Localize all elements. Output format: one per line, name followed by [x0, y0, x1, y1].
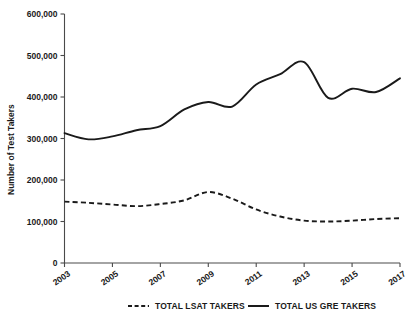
y-axis-title-text: Number of Test Takers: [6, 104, 16, 195]
y-tick-label: 200,000: [27, 175, 58, 185]
x-tick-label: 2015: [338, 268, 359, 287]
series-lines: [65, 61, 401, 221]
x-tick-label: 2003: [51, 268, 72, 287]
y-tick-label: 400,000: [27, 92, 58, 102]
chart-legend: TOTAL LSAT TAKERSTOTAL US GRE TAKERS: [128, 301, 376, 311]
y-tick-label: 300,000: [27, 134, 58, 144]
y-tick-label: 600,000: [27, 9, 58, 19]
legend-label: TOTAL US GRE TAKERS: [275, 301, 376, 311]
y-axis-title: Number of Test Takers: [6, 104, 16, 195]
y-tick-label: 0: [53, 258, 58, 268]
y-tick-label: 100,000: [27, 217, 58, 227]
x-tick-label: 2009: [195, 268, 216, 287]
series-line-dashed: [65, 192, 401, 221]
y-tick-label: 500,000: [27, 51, 58, 61]
series-line-solid: [65, 61, 401, 139]
y-axis-ticks: 0100,000200,000300,000400,000500,000600,…: [27, 9, 65, 268]
legend-label: TOTAL LSAT TAKERS: [155, 301, 245, 311]
x-tick-label: 2013: [291, 268, 312, 287]
line-chart: Number of Test Takers 0100,000200,000300…: [0, 0, 417, 320]
chart-container: Number of Test Takers 0100,000200,000300…: [0, 0, 417, 320]
x-tick-label: 2007: [147, 268, 168, 287]
x-tick-label: 2011: [243, 268, 264, 287]
x-axis-ticks: 20032005200720092011201320152017: [51, 263, 408, 287]
x-tick-label: 2005: [99, 268, 120, 287]
x-tick-label: 2017: [386, 268, 407, 287]
